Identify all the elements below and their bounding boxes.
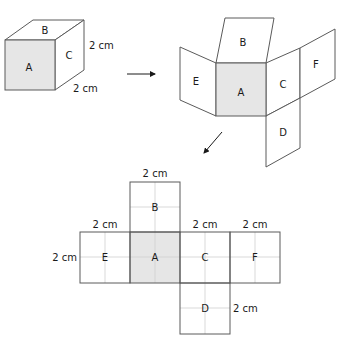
unfold-label-f: F [313,59,319,70]
net-dim-right-d: 2 cm [233,303,258,314]
net-label-f: F [252,252,258,263]
cube-dim-depth: 2 cm [73,83,98,94]
net-label-e: E [102,252,108,263]
cube-net-diagram: B C A 2 cm 2 cm B E A C F D [0,0,349,340]
cube-label-a: A [26,62,33,73]
unfold-label-e: E [193,76,199,87]
net-dim-top-e: 2 cm [93,219,118,230]
net-label-c: C [202,252,209,263]
net-dim-left-e: 2 cm [52,252,77,263]
net-dim-top-f: 2 cm [243,219,268,230]
net-dim-top-b: 2 cm [143,168,168,179]
net-dim-top-c: 2 cm [193,219,218,230]
arrow-down-left-icon [204,132,222,153]
cube-label-b: B [42,25,49,36]
unfold-label-d: D [279,127,287,138]
unfold-label-a: A [238,87,245,98]
cube-label-c: C [66,50,73,61]
cube-dim-height: 2 cm [89,40,114,51]
unfold-label-c: C [280,79,287,90]
unfolding-cube [180,18,335,167]
net-label-d: D [201,303,209,314]
unfold-label-b: B [240,37,247,48]
net-label-b: B [152,202,159,213]
net-label-a: A [152,252,159,263]
